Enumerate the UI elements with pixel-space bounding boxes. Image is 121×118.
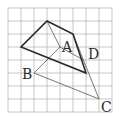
label-d: D: [88, 46, 99, 62]
label-b: B: [22, 66, 32, 82]
label-a: A: [61, 39, 73, 55]
geometry-diagram: A B C D: [0, 0, 121, 118]
label-c: C: [101, 99, 112, 115]
